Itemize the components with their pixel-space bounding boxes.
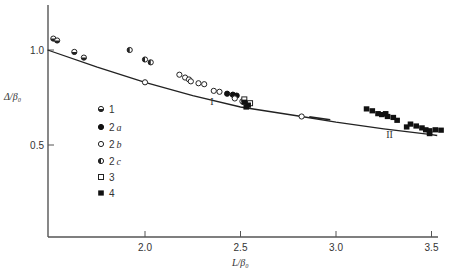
x-axis-title: L/β₀ <box>231 257 249 268</box>
legend-marker-icon <box>98 106 103 111</box>
legend-label: 4 <box>109 188 115 199</box>
legend-item-2b: 2b <box>98 139 121 150</box>
theory-curve-line <box>48 50 438 136</box>
x-tick-label: 2.0 <box>138 242 152 253</box>
legend-item-2c: 2c <box>98 156 121 167</box>
curve-annotation: I <box>210 96 213 107</box>
data-point-4 <box>408 122 414 127</box>
data-point-2b <box>202 82 207 87</box>
legend-item-1: 1 <box>98 104 115 115</box>
chart: 1.00.5 Δ/β₀ 2.02.53.03.5 L/β₀ III 12a2b2… <box>0 0 449 270</box>
data-point-4 <box>364 106 370 111</box>
y-axis: 1.00.5 Δ/β₀ <box>3 5 54 237</box>
data-point-2b <box>196 81 201 86</box>
data-point-4 <box>243 104 249 109</box>
legend: 12a2b2c34 <box>98 104 121 199</box>
data-point-2c <box>127 47 132 52</box>
theory-curve: III <box>48 50 438 140</box>
data-point-4 <box>369 108 375 113</box>
data-point-4 <box>438 128 444 133</box>
x-axis: 2.02.53.03.5 L/β₀ <box>48 231 439 268</box>
x-tick-label: 3.0 <box>329 242 343 253</box>
data-point-4 <box>394 118 400 123</box>
x-tick-label: 2.5 <box>234 242 248 253</box>
data-point-1 <box>81 55 86 60</box>
data-point-4 <box>427 131 433 136</box>
data-point-2c <box>148 60 153 65</box>
data-point-2a <box>225 91 230 96</box>
legend-item-3: 3 <box>99 172 116 183</box>
data-point-2c <box>142 57 147 62</box>
x-tick-label: 3.5 <box>425 242 439 253</box>
y-axis-title: Δ/β₀ <box>3 91 22 102</box>
legend-label: 2a <box>109 122 122 133</box>
legend-label: 2b <box>109 139 122 150</box>
legend-label: 3 <box>109 172 115 183</box>
legend-item-4: 4 <box>98 188 115 199</box>
legend-item-2a: 2a <box>98 122 121 133</box>
data-point-1 <box>55 38 60 43</box>
data-point-4 <box>413 123 419 128</box>
data-point-2b <box>217 89 222 94</box>
curve-marker <box>299 114 304 119</box>
curve-annotation: II <box>386 129 393 140</box>
data-point-4 <box>385 114 391 119</box>
data-point-2b <box>188 79 193 84</box>
legend-marker-icon <box>98 141 103 146</box>
y-tick-label: 0.5 <box>30 140 44 151</box>
legend-marker-icon <box>98 190 104 195</box>
legend-label: 2c <box>109 156 122 167</box>
data-point-2b <box>177 72 182 77</box>
legend-marker-icon <box>98 124 103 129</box>
data-point-1 <box>72 49 77 54</box>
legend-marker-icon <box>98 158 103 163</box>
data-point-4 <box>433 127 439 132</box>
data-point-2b <box>211 88 216 93</box>
curve-marker <box>142 80 147 85</box>
y-tick-label: 1.0 <box>30 45 44 56</box>
data-point-2b <box>232 96 237 101</box>
legend-label: 1 <box>109 104 115 115</box>
legend-marker-icon <box>99 175 104 180</box>
